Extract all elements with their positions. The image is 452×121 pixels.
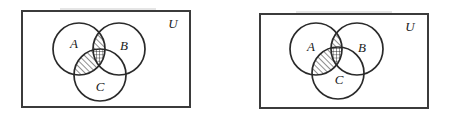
scan-artifact — [60, 8, 156, 10]
scan-artifact — [296, 11, 392, 13]
set-label-c: C — [96, 79, 105, 94]
venn-diagram-canvas: A B C U — [0, 0, 452, 121]
universe-rectangle — [260, 14, 428, 108]
venn-panel-right: A B C U — [260, 14, 428, 108]
set-label-a: A — [69, 36, 78, 51]
universe-label: U — [168, 16, 179, 31]
venn-figure: A B C U — [0, 0, 452, 121]
universe-label: U — [405, 19, 416, 34]
venn-panel-left: A B C U — [22, 11, 190, 107]
set-label-a: A — [306, 39, 315, 54]
set-label-c: C — [335, 72, 344, 87]
universe-rectangle — [22, 11, 190, 107]
set-label-b: B — [358, 40, 366, 55]
set-label-b: B — [120, 38, 128, 53]
